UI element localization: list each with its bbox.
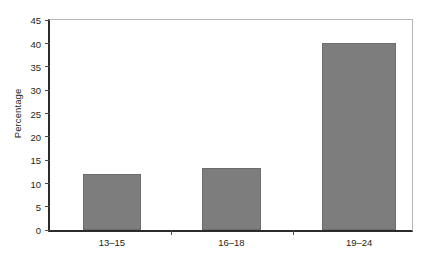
x-axis-label: 13–15 <box>99 237 125 248</box>
bar <box>202 168 261 230</box>
x-axis-label: 19–24 <box>346 237 372 248</box>
y-tick-label: 5 <box>36 202 41 212</box>
y-tick-mark <box>45 20 50 21</box>
bar <box>322 43 395 230</box>
bar-chart-figure: Percentage 051015202530354045 13–1516–18… <box>0 0 430 260</box>
y-tick-mark <box>45 90 50 91</box>
y-tick-label: 20 <box>30 132 41 142</box>
y-tick-mark <box>45 43 50 44</box>
y-tick-mark <box>45 183 50 184</box>
y-tick-label: 35 <box>30 62 41 72</box>
y-tick-mark <box>45 206 50 207</box>
y-tick-mark <box>45 160 50 161</box>
y-tick-label: 25 <box>30 109 41 119</box>
y-tick-label: 45 <box>30 16 41 26</box>
y-tick-label: 30 <box>30 86 41 96</box>
y-tick-label: 0 <box>36 226 41 236</box>
bar <box>83 174 142 230</box>
y-tick-label: 10 <box>30 179 41 189</box>
y-tick-mark <box>45 66 50 67</box>
y-tick-mark <box>45 113 50 114</box>
y-tick-mark <box>45 136 50 137</box>
y-axis-title: Percentage <box>12 69 23 159</box>
x-axis-label: 16–18 <box>218 237 244 248</box>
y-tick-mark <box>45 230 50 231</box>
y-tick-label: 40 <box>30 39 41 49</box>
plot-area: 051015202530354045 13–1516–1819–24 <box>48 19 413 232</box>
y-tick-label: 15 <box>30 156 41 166</box>
x-tick-mark <box>171 230 172 235</box>
x-tick-mark <box>293 230 294 235</box>
